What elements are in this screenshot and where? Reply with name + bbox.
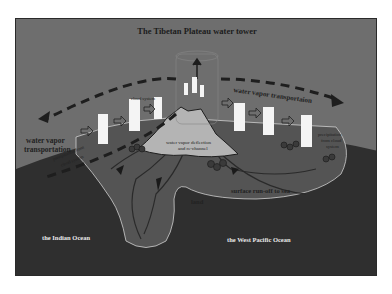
label-precip-right-3: system: [326, 144, 339, 150]
label-land: land: [191, 199, 203, 206]
label-indian-ocean: the Indian Ocean: [42, 235, 90, 242]
tower-clouds: [184, 77, 204, 97]
label-water-vapor-left-1: water vapor: [26, 137, 65, 145]
right-arrowhead: [331, 94, 344, 107]
label-cloud-system: cloud system: [131, 96, 155, 102]
label-surface-runoff: surface run-off to sea: [231, 188, 290, 195]
label-deflection-2: and re-channel: [178, 146, 208, 152]
diagram-title: The Tibetan Plateau water tower: [16, 27, 377, 36]
label-precip-right-1: precipitation: [318, 132, 341, 138]
label-precip-right-2: from cloud: [321, 138, 341, 144]
up-arrow: [193, 59, 201, 79]
label-west-pacific-ocean: the West Pacific Ocean: [227, 237, 291, 244]
tibetan-plateau-diagram: The Tibetan Plateau water tower cloud sy…: [15, 18, 377, 276]
left-arrowhead: [38, 111, 50, 123]
